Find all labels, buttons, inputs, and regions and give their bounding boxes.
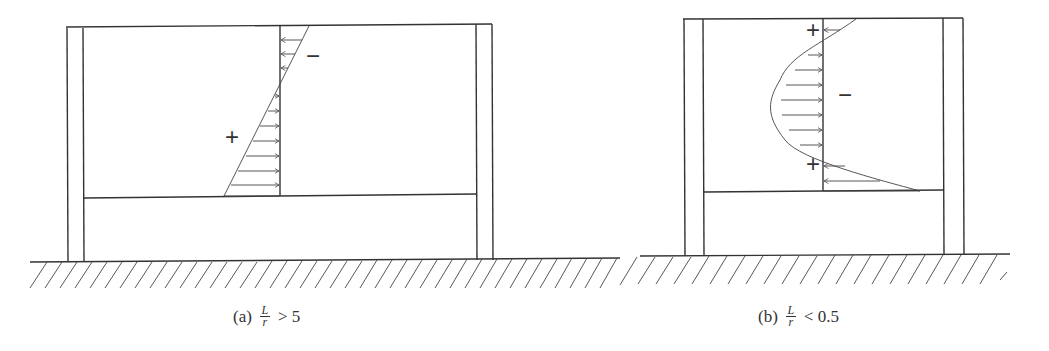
sign-positive-bottom-b: + [806, 152, 820, 176]
sign-positive-a: + [225, 125, 239, 149]
sign-negative-b: − [838, 83, 852, 107]
ground-hatching-b [620, 255, 1007, 285]
sign-negative-a: − [306, 44, 320, 68]
ratio-denominator-b: r [788, 317, 793, 328]
pressure-arrows-b [781, 30, 880, 181]
ratio-relation-b: < 0.5 [804, 307, 839, 327]
ratio-fraction-b: L r [786, 305, 796, 328]
ratio-relation-a: > 5 [278, 307, 300, 327]
ratio-denominator-a: r [263, 317, 268, 328]
caption-label-a: (a) [233, 307, 252, 327]
caption-b: (b) L r < 0.5 [758, 305, 839, 328]
ground-hatching-a [30, 258, 617, 288]
caption-label-b: (b) [758, 307, 778, 327]
sign-positive-top-b: + [806, 18, 820, 42]
figure-a [30, 24, 620, 288]
caption-a: (a) L r > 5 [233, 305, 300, 328]
diagram-canvas [0, 0, 1049, 351]
ratio-fraction-a: L r [260, 305, 270, 328]
